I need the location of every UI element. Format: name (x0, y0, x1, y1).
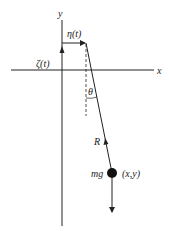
pendulum-diagram: y x η(t) ζ(t) θ R mg (x,y) (0, 0, 169, 231)
pendulum-mass (107, 168, 117, 178)
x-axis-label: x (156, 65, 162, 76)
zeta-label: ζ(t) (36, 58, 50, 70)
tension-arrow-icon (104, 138, 109, 145)
pendulum-rod (86, 43, 112, 173)
zeta-arrow-icon (60, 46, 65, 53)
tension-label: R (93, 136, 100, 147)
position-label: (x,y) (122, 168, 141, 180)
weight-label: mg (91, 168, 103, 179)
theta-label: θ (88, 86, 93, 97)
eta-label: η(t) (67, 28, 82, 40)
theta-arc (86, 97, 97, 98)
y-axis-label: y (57, 8, 63, 19)
